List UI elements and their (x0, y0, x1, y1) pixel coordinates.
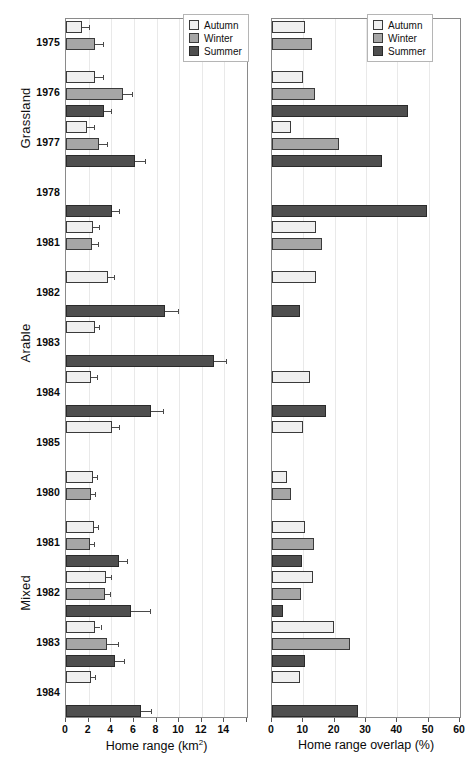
plot-area-home-range (66, 19, 247, 717)
bar-arable-1981-autumn (272, 221, 316, 233)
error-bar (112, 211, 119, 212)
bar-grassland-1975-winter (66, 38, 95, 50)
error-bar-cap (98, 525, 99, 530)
year-label-arable-1984: 1984 (36, 386, 60, 398)
year-label-arable-1982: 1982 (36, 286, 60, 298)
axis-tick (178, 718, 179, 722)
year-label-mixed-1981: 1981 (36, 536, 60, 548)
year-label-mixed-1980: 1980 (36, 486, 60, 498)
bar-grassland-1975-autumn (272, 21, 305, 33)
bar-grassland-1976-summer (66, 105, 104, 117)
error-bar-cap (114, 275, 115, 280)
axis-tick-label: 10 (172, 723, 184, 735)
error-bar (115, 661, 124, 662)
bar-grassland-1977-summer (272, 155, 382, 167)
year-label-arable-1985: 1985 (36, 436, 60, 448)
legend-swatch-winter-icon (373, 33, 383, 43)
error-bar-cap (226, 359, 227, 364)
error-bar-cap (119, 425, 120, 430)
axis-tick-label: 20 (328, 723, 340, 735)
bar-grassland-1976-summer (272, 105, 408, 117)
bar-mixed-1982-autumn (66, 571, 106, 583)
error-bar-cap (132, 92, 133, 97)
year-label-grassland-1978: 1978 (36, 186, 60, 198)
plot-area-home-range-overlap (272, 19, 460, 717)
error-bar (99, 144, 107, 145)
axis-tick-label: 12 (195, 723, 207, 735)
error-bar-cap (145, 159, 146, 164)
bar-grassland-1976-autumn (66, 71, 95, 83)
gridline (397, 19, 398, 717)
axis-tick-label: 60 (453, 723, 465, 735)
bar-mixed-1981-summer (272, 555, 302, 567)
bar-grassland-1975-winter (272, 38, 312, 50)
x-axis-title-home-range: Home range (km2) (65, 738, 248, 753)
bar-arable-1983-autumn (66, 321, 95, 333)
error-bar (165, 311, 178, 312)
gridline (157, 19, 158, 717)
home-range-overlap-legend-item-autumn: Autumn (373, 19, 426, 31)
error-bar-cap (95, 675, 96, 680)
axis-tick (459, 718, 460, 722)
error-bar (87, 127, 94, 128)
year-label-grassland-1975: 1975 (36, 36, 60, 48)
error-bar-cap (151, 709, 152, 714)
gridline (429, 19, 430, 717)
error-bar-cap (118, 642, 119, 647)
year-label-column: 1975197619771978198119821983198419851980… (8, 0, 60, 780)
bar-arable-1984-summer (66, 405, 151, 417)
error-bar (95, 77, 103, 78)
error-bar-cap (124, 659, 125, 664)
bar-mixed-1981-winter (66, 538, 90, 550)
axis-tick-label: 0 (268, 723, 274, 735)
legend-swatch-winter-icon (189, 33, 199, 43)
axis-tick (396, 718, 397, 722)
axis-tick-label: 50 (422, 723, 434, 735)
bar-arable-1981-winter (272, 238, 322, 250)
legend-swatch-autumn-icon (189, 20, 199, 30)
bar-grassland-1977-winter (66, 138, 99, 150)
bar-arable-1985-autumn (272, 421, 303, 433)
error-bar-cap (111, 109, 112, 114)
legend-label: Winter (204, 33, 233, 44)
gridline (335, 19, 336, 717)
error-bar-cap (127, 559, 128, 564)
bar-mixed-1982-winter (66, 588, 105, 600)
axis-tick (271, 718, 272, 722)
year-label-mixed-1982: 1982 (36, 586, 60, 598)
error-bar-cap (97, 375, 98, 380)
bar-mixed-1980-winter (272, 488, 291, 500)
axis-tick-label: 30 (359, 723, 371, 735)
bar-mixed-1984-summer (66, 705, 141, 717)
bar-mixed-1984-autumn (272, 671, 300, 683)
bar-grassland-1977-summer (66, 155, 135, 167)
error-bar-cap (94, 542, 95, 547)
bar-arable-1982-autumn (66, 271, 108, 283)
year-label-arable-1983: 1983 (36, 336, 60, 348)
axis-tick-label: 14 (218, 723, 230, 735)
error-bar-cap (101, 625, 102, 630)
legend-label: Winter (388, 33, 417, 44)
bar-mixed-1983-autumn (272, 621, 334, 633)
home-range-legend-item-autumn: Autumn (189, 19, 242, 31)
year-label-mixed-1984: 1984 (36, 686, 60, 698)
panel-home-range-overlap (271, 18, 461, 718)
bar-mixed-1983-summer (66, 655, 115, 667)
bar-mixed-1981-winter (272, 538, 314, 550)
axis-tick (223, 718, 224, 722)
gridline (366, 19, 367, 717)
axis-tick (65, 718, 66, 722)
error-bar (107, 644, 118, 645)
legend-label: Autumn (204, 20, 238, 31)
legend-label: Summer (388, 46, 426, 57)
error-bar-cap (110, 592, 111, 597)
bar-mixed-1980-autumn (66, 471, 93, 483)
bar-mixed-1981-autumn (66, 521, 94, 533)
x-axis-home-range: Home range (km2) 02468101214 (65, 718, 248, 752)
gridline (134, 19, 135, 717)
axis-tick (201, 718, 202, 722)
gridline (179, 19, 180, 717)
error-bar-cap (95, 492, 96, 497)
bar-grassland-1977-autumn (66, 121, 87, 133)
bar-arable-1985-autumn (66, 421, 112, 433)
